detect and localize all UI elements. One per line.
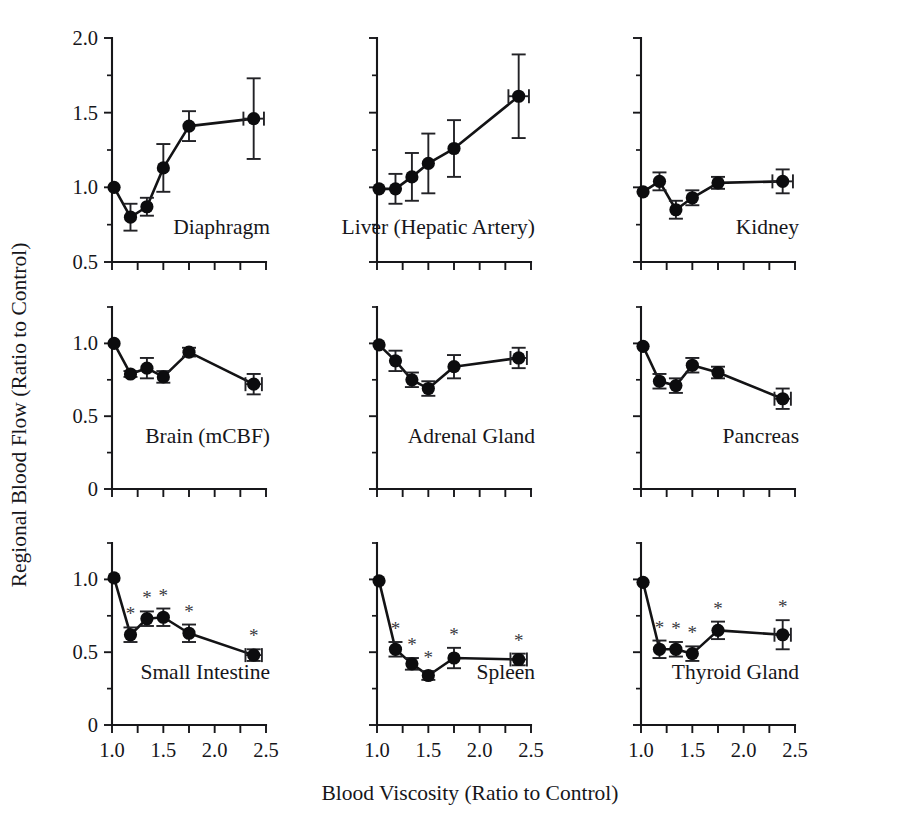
data-point-marker (107, 181, 120, 194)
significance-asterisk: * (778, 596, 788, 617)
data-point-marker (140, 362, 153, 375)
data-point-marker (653, 375, 666, 388)
data-point-marker (157, 161, 170, 174)
data-point-marker (669, 643, 682, 656)
x-tick-label: 1.5 (151, 739, 177, 761)
y-tick-label: 0 (88, 714, 98, 736)
series-line (379, 96, 519, 189)
significance-asterisk: * (126, 603, 136, 624)
x-tick-label: 2.0 (731, 739, 757, 761)
data-point-marker (686, 191, 699, 204)
data-point-marker (653, 175, 666, 188)
data-point-marker (157, 370, 170, 383)
significance-asterisk: * (159, 585, 169, 606)
data-point-marker (182, 627, 195, 640)
x-tick-label: 1.5 (416, 739, 442, 761)
y-tick-label: 0.5 (72, 251, 98, 273)
y-tick-label: 0 (88, 478, 98, 500)
data-point-marker (124, 211, 137, 224)
significance-asterisk: * (407, 634, 417, 655)
data-point-marker (405, 373, 418, 386)
data-point-marker (182, 346, 195, 359)
panel-title: Small Intestine (140, 660, 270, 684)
panel-title: Spleen (476, 660, 535, 684)
panel-title: Thyroid Gland (672, 660, 799, 684)
x-tick-label: 2.0 (467, 739, 493, 761)
significance-asterisk: * (713, 598, 723, 619)
y-tick-label: 0.5 (72, 405, 98, 427)
panel-axes (112, 307, 266, 489)
panel-title: Pancreas (723, 424, 799, 448)
significance-asterisk: * (391, 618, 401, 639)
data-point-marker (157, 611, 170, 624)
data-point-marker (405, 657, 418, 670)
significance-asterisk: * (249, 625, 259, 646)
significance-asterisk: * (688, 622, 698, 643)
panel: 1.01.52.02.5*****Spleen (364, 543, 544, 761)
panels-layer: 0.51.01.52.0DiaphragmLiver (Hepatic Arte… (72, 27, 807, 761)
significance-asterisk: * (671, 618, 681, 639)
panel-title: Kidney (736, 215, 800, 239)
x-tick-label: 2.0 (202, 739, 228, 761)
data-point-marker (372, 182, 385, 195)
data-point-marker (776, 392, 789, 405)
significance-asterisk: * (184, 601, 194, 622)
data-point-marker (389, 354, 402, 367)
data-point-marker (711, 366, 724, 379)
data-point-marker (669, 379, 682, 392)
data-point-marker (107, 571, 120, 584)
data-point-marker (711, 176, 724, 189)
data-point-marker (776, 628, 789, 641)
panel-title: Brain (mCBF) (145, 424, 270, 448)
data-point-marker (247, 112, 260, 125)
x-tick-label: 1.0 (364, 739, 390, 761)
significance-asterisk: * (449, 624, 459, 645)
data-point-marker (405, 170, 418, 183)
significance-asterisk: * (514, 630, 524, 651)
data-point-marker (389, 182, 402, 195)
y-tick-label: 1.0 (72, 332, 98, 354)
panel: Kidney (633, 38, 799, 270)
axis-titles-layer: Regional Blood Flow (Ratio to Control) B… (7, 243, 618, 805)
data-point-marker (636, 185, 649, 198)
data-point-marker (686, 647, 699, 660)
x-tick-label: 2.5 (782, 739, 808, 761)
data-point-marker (447, 360, 460, 373)
series-line (114, 119, 254, 218)
y-tick-label: 1.5 (72, 102, 98, 124)
x-tick-label: 1.0 (628, 739, 654, 761)
data-point-marker (711, 624, 724, 637)
data-point-marker (653, 643, 666, 656)
x-tick-label: 2.5 (253, 739, 279, 761)
figure-container: 0.51.01.52.0DiaphragmLiver (Hepatic Arte… (0, 0, 902, 830)
data-point-marker (686, 359, 699, 372)
y-tick-label: 0.5 (72, 641, 98, 663)
x-tick-label: 1.0 (99, 739, 125, 761)
panel: 1.01.52.02.5*****Thyroid Gland (628, 543, 808, 761)
panel-title: Liver (Hepatic Artery) (342, 215, 535, 239)
multi-panel-line-chart: 0.51.01.52.0DiaphragmLiver (Hepatic Arte… (0, 0, 902, 830)
data-point-marker (776, 175, 789, 188)
data-point-marker (422, 669, 435, 682)
significance-asterisk: * (424, 647, 434, 668)
panel-title: Diaphragm (173, 215, 270, 239)
significance-asterisk: * (655, 617, 665, 638)
y-tick-label: 1.0 (72, 568, 98, 590)
panel-axes (377, 307, 531, 489)
y-axis-title: Regional Blood Flow (Ratio to Control) (7, 243, 31, 588)
data-point-marker (636, 576, 649, 589)
data-point-marker (140, 612, 153, 625)
data-point-marker (422, 382, 435, 395)
data-point-marker (372, 574, 385, 587)
data-point-marker (124, 628, 137, 641)
significance-asterisk: * (142, 587, 152, 608)
panel: Pancreas (633, 307, 799, 497)
data-point-marker (140, 200, 153, 213)
data-point-marker (512, 90, 525, 103)
x-tick-label: 2.5 (518, 739, 544, 761)
data-point-marker (182, 120, 195, 133)
data-point-marker (512, 351, 525, 364)
data-point-marker (669, 203, 682, 216)
data-point-marker (447, 142, 460, 155)
data-point-marker (389, 643, 402, 656)
